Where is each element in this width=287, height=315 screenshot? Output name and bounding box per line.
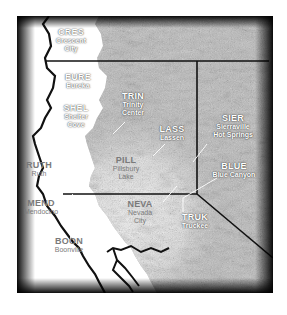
station-label-pill: PILL Pillsbury Lake [113,156,139,180]
station-label-blue: BLUE Blue Canyon [213,162,256,179]
station-name: Cove [64,121,89,128]
station-name: Eureka [65,82,91,89]
station-name: Hot Springs [213,131,253,138]
station-label-truk: TRUK Truckee [182,213,208,230]
station-name: City [56,45,86,52]
relief-map[interactable]: CRES Crescent City EURE Eureka TRIN Trin… [17,16,273,293]
station-name: Blue Canyon [213,171,256,178]
station-name: City [127,217,152,224]
station-name: Trinity [122,101,144,108]
station-label-neva: NEVA Nevada City [127,200,152,224]
station-name: Sierraville [213,123,253,130]
station-name: Truckee [182,222,208,229]
station-label-lass: LASS Lassen [160,125,185,142]
station-name: Shelter [64,113,89,120]
station-label-mend: MEND Mendocino [24,199,58,216]
station-label-boon: BOON Boonville [55,237,83,254]
station-code: NEVA [127,200,152,209]
station-name: Lake [113,173,139,180]
station-label-cres: CRES Crescent City [56,28,86,52]
station-name: Ruth [26,170,52,177]
station-label-trin: TRIN Trinity Center [122,92,144,116]
station-name: Nevada [127,209,152,216]
station-label-sier: SIER Sierraville Hot Springs [213,114,253,138]
station-code: RUTH [26,161,52,170]
station-code: BOON [55,237,83,246]
station-code: PILL [113,156,139,165]
map-frame: CRES Crescent City EURE Eureka TRIN Trin… [17,16,273,293]
station-name: Boonville [55,246,83,253]
station-name: Lassen [160,134,185,141]
station-name: Crescent [56,37,86,44]
station-name: Mendocino [24,208,58,215]
station-label-ruth: RUTH Ruth [26,161,52,178]
station-label-eure: EURE Eureka [65,73,91,90]
station-name: Center [122,109,144,116]
station-code: MEND [24,199,58,208]
station-label-shel: SHEL Shelter Cove [64,104,89,128]
station-name: Pillsbury [113,165,139,172]
